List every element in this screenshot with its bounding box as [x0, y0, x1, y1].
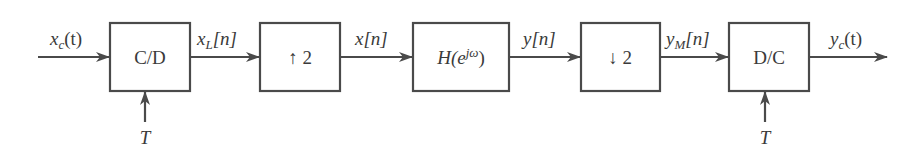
- block-filter: H(ejω): [413, 23, 509, 91]
- block-dc-label: D/C: [753, 47, 785, 68]
- signal-label-yM: yM[n]: [664, 28, 710, 52]
- block-downsample: ↓ 2: [581, 23, 660, 91]
- block-cd: C/D: [110, 23, 190, 91]
- sampling-period-label-dc: T: [760, 127, 772, 148]
- block-filter-label: H(ejω): [436, 45, 485, 69]
- block-diagram: C/D ↑ 2 H(ejω) ↓ 2 D/C xc(t) xL[n] x[n] …: [0, 0, 915, 152]
- signal-label-x: x[n]: [354, 28, 388, 49]
- block-downsample-label: ↓ 2: [608, 47, 632, 68]
- signal-label-xL: xL[n]: [196, 28, 237, 52]
- block-upsample: ↑ 2: [260, 23, 340, 91]
- block-cd-label: C/D: [134, 47, 166, 68]
- signal-label-y: y[n]: [521, 28, 556, 49]
- block-upsample-label: ↑ 2: [288, 47, 312, 68]
- signal-label-yc: yc(t): [828, 28, 862, 52]
- sampling-period-label-cd: T: [140, 127, 152, 148]
- block-dc: D/C: [729, 23, 809, 91]
- signal-label-xc: xc(t): [49, 28, 82, 52]
